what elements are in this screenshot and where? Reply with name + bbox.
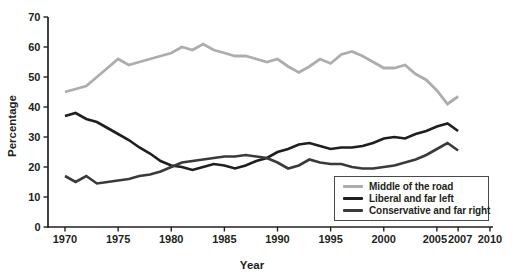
- legend: Middle of the road Liberal and far left …: [334, 176, 489, 221]
- legend-label-conservative: Conservative and far right: [369, 205, 490, 216]
- x-tick-label: 1985: [212, 233, 236, 245]
- y-tick-label: 0: [34, 221, 40, 233]
- x-tick-label: 1995: [318, 233, 342, 245]
- y-tick-label: 10: [28, 191, 40, 203]
- x-axis-title-text: Year: [240, 259, 264, 271]
- y-axis-title-text: Percentage: [6, 95, 18, 157]
- y-tick-label: 70: [28, 11, 40, 23]
- legend-item-liberal-far-left: Liberal and far left: [343, 193, 486, 204]
- legend-label-middle: Middle of the road: [369, 181, 453, 192]
- y-tick-label: 60: [28, 41, 40, 53]
- legend-label-liberal: Liberal and far left: [369, 193, 454, 204]
- series-line-0: [65, 44, 458, 104]
- x-tick-label: 2010: [478, 233, 502, 245]
- legend-swatch-middle-line: [343, 185, 363, 188]
- legend-item-conservative-far-right: Conservative and far right: [343, 205, 486, 216]
- y-tick-label: 20: [28, 161, 40, 173]
- x-tick-label: 1990: [265, 233, 289, 245]
- x-tick-label: 1970: [53, 233, 77, 245]
- y-tick-label: 30: [28, 131, 40, 143]
- y-tick-label: 40: [28, 101, 40, 113]
- legend-item-middle-of-the-road: Middle of the road: [343, 181, 486, 192]
- x-tick-label: 1975: [106, 233, 130, 245]
- x-tick-label: 2000: [372, 233, 396, 245]
- legend-swatch-conservative-line: [343, 209, 363, 212]
- political-orientation-line-chart: 0102030405060701970197519801985199019952…: [0, 0, 518, 275]
- y-tick-label: 50: [28, 71, 40, 83]
- x-tick-label: 2005: [423, 233, 447, 245]
- x-tick-label: 1980: [159, 233, 183, 245]
- x-tick-label: 2007: [448, 233, 472, 245]
- legend-swatch-liberal-line: [343, 197, 363, 200]
- plot-area: 0102030405060701970197519801985199019952…: [0, 0, 518, 275]
- series-line-1: [65, 113, 458, 170]
